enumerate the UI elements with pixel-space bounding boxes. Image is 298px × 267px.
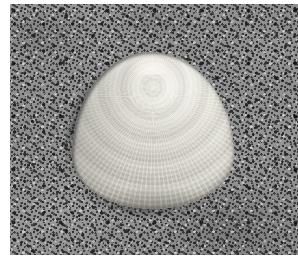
page-margin-left: [0, 0, 10, 267]
shell-ventral-shading: [72, 52, 234, 209]
page-margin-bottom: [0, 255, 298, 267]
page-margin-top: [0, 0, 298, 4]
image-canvas: A pale ridged bivalve clam shell lying o…: [0, 0, 298, 267]
clam-shell: [72, 52, 234, 209]
photograph: [10, 4, 298, 255]
shell-body: [72, 52, 234, 209]
